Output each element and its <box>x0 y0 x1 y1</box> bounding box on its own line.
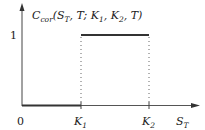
x-axis-label: ST <box>176 115 190 130</box>
y-axis-title: Ccor(ST, T; K1, K2, T) <box>32 9 142 24</box>
origin-label: 0 <box>17 115 24 128</box>
x-axis-arrow-icon <box>191 103 200 108</box>
k1-label: K1 <box>73 115 87 130</box>
y-axis-arrow-icon <box>20 3 25 11</box>
y-tick-label-1: 1 <box>10 29 17 42</box>
payoff-diagram: Ccor(ST, T; K1, K2, T) 1 0 K1 K2 ST <box>0 0 205 130</box>
k2-label: K2 <box>141 115 155 130</box>
